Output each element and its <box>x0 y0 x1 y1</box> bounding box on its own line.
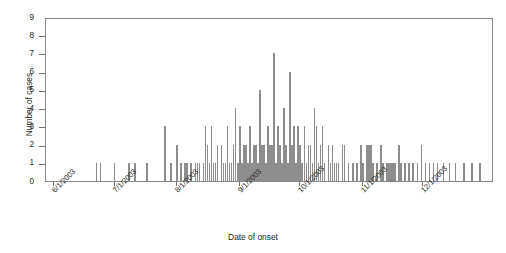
bar <box>352 163 354 181</box>
bar <box>176 145 178 181</box>
bar <box>344 145 346 181</box>
bar <box>421 145 423 181</box>
y-axis-tick-label: 5 <box>4 85 34 94</box>
bar <box>479 163 481 181</box>
bar <box>114 163 116 181</box>
bar <box>463 163 465 181</box>
bar <box>455 163 457 181</box>
y-axis-tick-label: 3 <box>4 122 34 131</box>
bar <box>449 163 451 181</box>
plot-area <box>45 18 493 182</box>
bar <box>417 163 419 181</box>
bar <box>408 163 410 181</box>
y-axis-tick-label: 0 <box>4 177 34 186</box>
y-axis-tick-label: 6 <box>4 67 34 76</box>
bar <box>356 163 358 181</box>
y-axis-tick-label: 4 <box>4 104 34 113</box>
bar <box>362 163 364 181</box>
bar <box>338 163 340 181</box>
bar <box>146 163 148 181</box>
bar <box>471 163 473 181</box>
bar <box>400 163 402 181</box>
bar <box>96 163 98 181</box>
bar <box>170 163 172 181</box>
bar <box>164 126 166 181</box>
x-axis-title: Date of onset <box>0 232 506 242</box>
bar <box>412 163 414 181</box>
bar <box>217 145 219 181</box>
bar <box>425 163 427 181</box>
bar <box>404 163 406 181</box>
bar <box>394 163 396 181</box>
y-axis-tick-label: 1 <box>4 158 34 167</box>
y-axis-tick-label: 8 <box>4 31 34 40</box>
y-axis-tick-label: 9 <box>4 13 34 22</box>
y-axis-tick-label: 2 <box>4 140 34 149</box>
bar <box>100 163 102 181</box>
bar <box>348 163 350 181</box>
y-axis-tick-label: 7 <box>4 49 34 58</box>
bar-series <box>46 19 492 181</box>
epidemic-curve-figure: Number of cases 0123456789 6/1/20037/1/2… <box>0 0 506 253</box>
